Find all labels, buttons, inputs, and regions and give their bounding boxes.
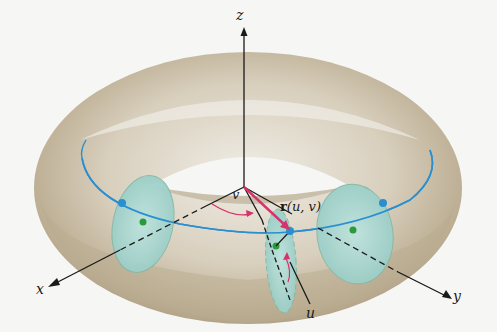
angle-u-label: u (306, 305, 315, 321)
z-axis-label: z (235, 7, 244, 23)
x-arrowhead (48, 278, 60, 287)
center-point-left (140, 219, 147, 226)
y-arrowhead (442, 290, 452, 299)
circle-point-right (379, 199, 387, 207)
circle-point-left (118, 199, 126, 207)
y-axis-label: y (452, 288, 462, 304)
z-arrowhead (241, 27, 248, 36)
angle-v-label: v (232, 187, 240, 202)
y-axis (398, 272, 448, 297)
torus-figure: z x y v u r(u, v) (0, 0, 497, 332)
position-vector-label: r(u, v) (280, 199, 321, 214)
center-point-right (350, 227, 357, 234)
torus-diagram: z x y v u r(u, v) (0, 0, 497, 332)
x-axis-label: x (36, 281, 44, 297)
